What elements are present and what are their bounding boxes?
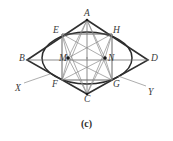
label-a: A (84, 9, 90, 19)
label-c: C (84, 95, 90, 105)
vertex-point-a (86, 19, 89, 22)
figure-caption: (c) (0, 118, 173, 129)
center-point-n (103, 56, 107, 60)
figure-container: A E H B M N D X F G Y C (c) (0, 0, 173, 141)
label-f: F (52, 80, 58, 90)
label-e: E (53, 26, 59, 36)
label-b: B (19, 54, 25, 64)
label-h: H (113, 26, 120, 36)
construction-line-c-h (87, 34, 112, 94)
radius-line-m-h (68, 34, 112, 58)
radius-line-m-g (68, 58, 112, 80)
construction-line-c-e (62, 34, 87, 94)
origin-point (86, 57, 88, 59)
label-g: G (113, 80, 120, 90)
leader-line-x-f (24, 74, 50, 83)
label-n: N (108, 54, 114, 64)
rhombus-outline (27, 20, 148, 94)
label-y: Y (148, 88, 153, 98)
radius-line-n-e (62, 34, 105, 58)
radius-line-n-f (62, 58, 105, 80)
label-d: D (151, 54, 158, 64)
label-x: X (15, 84, 21, 94)
label-m: M (59, 54, 67, 64)
leader-line-g-y (118, 76, 146, 86)
